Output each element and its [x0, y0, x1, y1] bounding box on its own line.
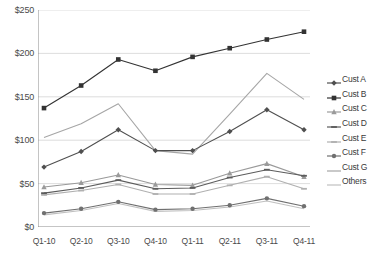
data-point-marker [227, 184, 233, 186]
x-axis: Q1-10Q2-10Q3-10Q4-10Q1-11Q2-11Q3-11Q4-11 [38, 236, 310, 250]
legend-label: Cust D [342, 118, 367, 128]
legend-item-cust-e[interactable]: Cust E [327, 130, 382, 145]
legend-item-others[interactable]: Others [327, 174, 382, 189]
data-point-marker [79, 83, 84, 88]
x-axis-tick-label: Q3-11 [256, 236, 278, 246]
data-point-marker [331, 126, 337, 128]
x-axis-tick-label: Q3-10 [107, 236, 130, 246]
legend-swatch-icon [327, 74, 341, 84]
legend-item-cust-d[interactable]: Cust D [327, 116, 382, 131]
legend-swatch-icon [327, 89, 341, 99]
data-point-marker [227, 177, 233, 179]
data-point-marker [116, 127, 121, 132]
legend-label: Cust F [342, 147, 366, 157]
y-axis-tick-label: $100 [15, 135, 34, 145]
data-point-marker [190, 55, 195, 60]
data-point-marker [264, 161, 269, 166]
x-axis-tick-label: Q4-11 [293, 236, 315, 246]
data-point-marker [302, 29, 307, 34]
data-point-marker [41, 192, 47, 194]
figure-caption [10, 262, 300, 272]
data-point-marker [153, 193, 159, 195]
data-point-marker [42, 106, 47, 111]
data-point-marker [153, 188, 159, 190]
data-point-marker [116, 57, 121, 62]
x-axis-tick-label: Q2-10 [70, 236, 93, 246]
legend-label: Cust C [342, 103, 367, 113]
data-point-marker [331, 81, 336, 86]
data-point-marker [302, 204, 306, 208]
data-point-marker [41, 164, 46, 169]
series-line-cust-d [44, 170, 304, 193]
legend-label: Cust B [342, 89, 366, 99]
legend-label: Cust A [342, 74, 366, 84]
legend-swatch-icon [327, 147, 341, 157]
y-axis-tick-label: $50 [20, 179, 34, 189]
legend-item-cust-a[interactable]: Cust A [327, 72, 382, 87]
data-point-marker [79, 207, 83, 211]
data-point-marker [190, 193, 196, 195]
legend-swatch-icon [327, 118, 341, 128]
y-axis-tick-label: $250 [15, 5, 34, 15]
data-point-marker [332, 154, 336, 158]
x-axis-tick-label: Q4-10 [144, 236, 167, 246]
y-axis: $0$50$100$150$200$250 [0, 0, 34, 272]
legend-swatch-icon [327, 133, 341, 143]
data-point-marker [264, 169, 270, 171]
plot-area [38, 10, 310, 227]
data-point-marker [115, 179, 121, 181]
data-point-marker [264, 107, 269, 112]
data-point-marker [153, 68, 158, 73]
data-point-marker [301, 175, 307, 177]
data-point-marker [227, 46, 232, 51]
data-point-marker [228, 203, 232, 207]
chart-screenshot: $0$50$100$150$200$250 Q1-10Q2-10Q3-10Q4-… [0, 0, 382, 272]
x-axis-tick-label: Q1-10 [33, 236, 56, 246]
legend-label: Others [342, 176, 366, 186]
data-point-marker [264, 176, 270, 178]
legend-label: Cust G [342, 162, 367, 172]
data-point-marker [265, 37, 270, 42]
legend-item-cust-f[interactable]: Cust F [327, 145, 382, 160]
x-axis-tick-label: Q2-11 [219, 236, 241, 246]
line-chart-svg [38, 10, 310, 227]
data-point-marker [78, 149, 83, 154]
legend-swatch-icon [327, 176, 341, 186]
y-axis-tick-label: $150 [15, 92, 34, 102]
series-line-cust-e [44, 177, 304, 195]
data-point-marker [227, 129, 232, 134]
data-point-marker [265, 196, 269, 200]
legend-item-cust-g[interactable]: Cust G [327, 160, 382, 175]
y-axis-tick-label: $0 [24, 222, 34, 232]
data-point-marker [331, 141, 337, 143]
x-axis-tick-label: Q1-11 [182, 236, 204, 246]
data-point-marker [190, 187, 196, 189]
data-point-marker [42, 211, 46, 215]
chart-legend: Cust ACust BCust CCust DCust ECust FCust… [327, 72, 382, 189]
data-point-marker [332, 96, 337, 101]
data-point-marker [116, 172, 121, 177]
legend-swatch-icon [327, 162, 341, 172]
series-line-cust-a [44, 110, 304, 167]
data-point-marker [115, 184, 121, 186]
legend-item-cust-c[interactable]: Cust C [327, 101, 382, 116]
data-point-marker [41, 194, 47, 196]
legend-swatch-icon [327, 103, 341, 113]
data-point-marker [153, 207, 157, 211]
legend-item-cust-b[interactable]: Cust B [327, 87, 382, 102]
data-point-marker [190, 207, 194, 211]
data-point-marker [301, 127, 306, 132]
legend-label: Cust E [342, 133, 366, 143]
data-point-marker [78, 187, 84, 189]
data-point-marker [78, 190, 84, 192]
y-axis-tick-label: $200 [15, 48, 34, 58]
data-point-marker [116, 200, 120, 204]
data-point-marker [301, 188, 307, 190]
